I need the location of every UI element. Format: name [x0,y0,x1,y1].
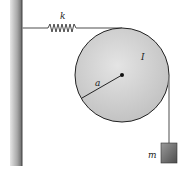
spring [48,24,76,32]
wall [10,0,22,166]
label-a: a [95,78,100,88]
diagram-canvas: k I a m [0,0,185,170]
label-I: I [140,52,145,62]
label-k: k [60,11,65,21]
label-m: m [148,150,157,160]
hanging-mass [161,143,177,163]
